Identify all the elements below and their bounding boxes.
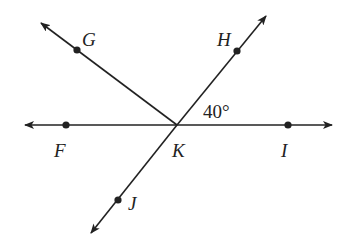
diagram-canvas: G H F K I J 40° <box>0 0 349 250</box>
label-K: K <box>171 140 186 161</box>
label-H: H <box>216 29 232 50</box>
point-I <box>284 121 291 128</box>
ray-KG <box>41 23 177 125</box>
geometry-diagram: G H F K I J 40° <box>0 0 349 250</box>
label-F: F <box>53 140 66 161</box>
line-KJ <box>91 125 177 233</box>
point-F <box>62 121 69 128</box>
label-I: I <box>280 140 289 161</box>
point-G <box>73 46 80 53</box>
point-H <box>233 47 240 54</box>
label-J: J <box>128 193 138 214</box>
angle-label-HKI: 40° <box>203 101 230 122</box>
label-G: G <box>82 29 96 50</box>
point-J <box>114 196 121 203</box>
